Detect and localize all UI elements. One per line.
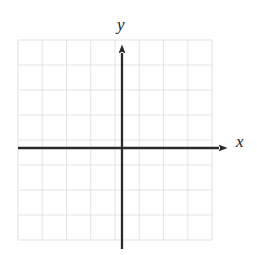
grid-lines: [18, 40, 212, 240]
coordinate-grid-figure: y x: [0, 0, 262, 255]
y-axis-label: y: [117, 16, 125, 33]
coordinate-plane-svg: [0, 0, 262, 255]
x-axis-label: x: [236, 133, 244, 150]
